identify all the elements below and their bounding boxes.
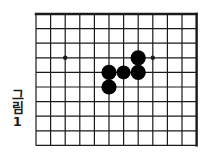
grid-vertical-lines	[36, 14, 197, 145]
grid-horizontal-lines	[36, 14, 197, 145]
go-stone-black	[101, 65, 116, 80]
go-stone-black	[131, 50, 146, 65]
star-point-right	[151, 56, 155, 60]
go-board-diagram	[0, 0, 213, 158]
figure-root: 그림1	[0, 0, 213, 158]
go-stone-black	[131, 65, 146, 80]
figure-caption-text: 그림1	[10, 88, 24, 129]
go-stone-black	[117, 65, 131, 79]
go-stone-black	[101, 79, 116, 94]
star-point-left	[63, 56, 67, 60]
figure-caption-block: 그림1	[4, 88, 30, 150]
board-border	[36, 14, 197, 145]
